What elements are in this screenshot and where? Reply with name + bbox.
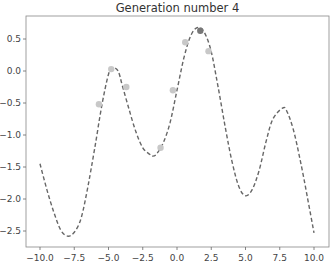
population-points (96, 27, 212, 151)
population-point (170, 87, 176, 93)
best-point (197, 27, 203, 33)
x-tick-label: 7.5 (273, 253, 287, 263)
y-tick-label: −2.5 (0, 226, 21, 236)
y-tick-label: −1.5 (0, 162, 21, 172)
population-point (182, 39, 188, 45)
y-tick-label: −0.5 (0, 98, 21, 108)
plot-area: 0.50.0−0.5−1.0−1.5−2.0−2.5 −10.0−7.5−5.0… (0, 0, 332, 275)
population-point (108, 66, 114, 72)
population-point (96, 101, 102, 107)
x-tick-label: 5.0 (238, 253, 253, 263)
x-tick-label: −10.0 (26, 253, 54, 263)
x-tick-label: −2.5 (132, 253, 154, 263)
x-tick-label: 0.0 (170, 253, 185, 263)
x-tick-label: −7.5 (63, 253, 85, 263)
population-point (157, 145, 163, 151)
y-tick-label: −1.0 (0, 130, 21, 140)
y-axis: 0.50.0−0.5−1.0−1.5−2.0−2.5 (0, 34, 26, 236)
objective-curve (40, 27, 314, 236)
population-point (205, 48, 211, 54)
y-tick-label: −2.0 (0, 194, 21, 204)
y-tick-label: 0.0 (7, 66, 22, 76)
population-point (123, 84, 129, 90)
y-tick-label: 0.5 (7, 34, 21, 44)
x-tick-label: 10.0 (304, 253, 324, 263)
axes-frame (26, 16, 329, 247)
x-tick-label: 2.5 (204, 253, 218, 263)
x-tick-label: −5.0 (98, 253, 120, 263)
x-axis: −10.0−7.5−5.0−2.50.02.55.07.510.0 (26, 247, 324, 263)
